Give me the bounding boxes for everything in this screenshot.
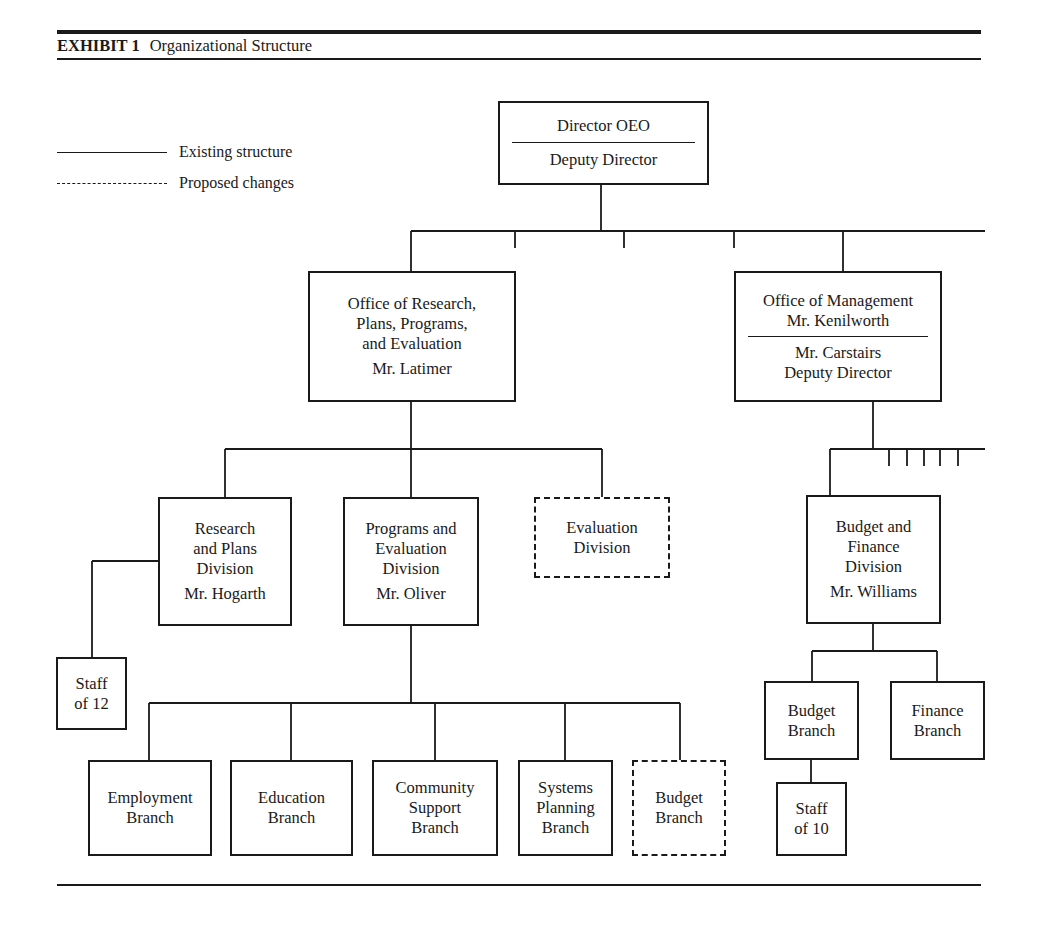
node-label-line: Branch	[655, 808, 703, 828]
node-label-line: Division	[574, 538, 631, 558]
node-label-line: Branch	[914, 721, 962, 741]
node-label-line: Division	[383, 559, 440, 579]
node-label-line: Planning	[536, 798, 595, 818]
director-title: Director OEO	[557, 116, 650, 136]
node-budget-finance-division: Budget and Finance Division Mr. Williams	[806, 495, 941, 624]
node-label-line: Budget and	[836, 517, 912, 537]
legend-existing-label: Existing structure	[179, 143, 292, 161]
bottom-rule	[57, 884, 981, 886]
node-employment-branch: Employment Branch	[88, 760, 212, 856]
node-budget-branch-proposed: Budget Branch	[632, 760, 726, 856]
node-label-line: Office of Research,	[348, 294, 476, 314]
node-label-line: Branch	[788, 721, 836, 741]
node-label-line: Staff	[76, 674, 108, 694]
node-community-support-branch: Community Support Branch	[372, 760, 498, 856]
node-research-plans-division: Research and Plans Division Mr. Hogarth	[158, 497, 292, 626]
deputy-director-title: Deputy Director	[550, 150, 658, 170]
node-systems-planning-branch: Systems Planning Branch	[518, 760, 613, 856]
title-rule	[57, 58, 981, 60]
node-label-line: of 12	[74, 694, 108, 714]
top-rule	[57, 30, 981, 34]
node-label-line: and Plans	[193, 539, 257, 559]
node-label-line: Plans, Programs,	[356, 314, 467, 334]
legend-existing: Existing structure	[57, 143, 292, 161]
legend-proposed: Proposed changes	[57, 174, 294, 192]
node-label-line: Evaluation	[375, 539, 446, 559]
node-label-line: Employment	[107, 788, 192, 808]
solid-line-sample	[57, 152, 167, 153]
node-label-line: Community	[396, 778, 475, 798]
node-label-line: Finance	[911, 701, 963, 721]
node-label-line: Division	[197, 559, 254, 579]
node-label-line: Programs and	[365, 519, 456, 539]
node-head-name: Mr. Oliver	[376, 584, 446, 604]
divider	[748, 336, 928, 337]
node-label-line: of 10	[794, 819, 828, 839]
node-finance-branch: Finance Branch	[890, 681, 985, 760]
node-label-line: Branch	[411, 818, 459, 838]
node-label-line: Staff	[796, 799, 828, 819]
node-head-name: Mr. Hogarth	[184, 584, 266, 604]
dashed-line-sample	[57, 183, 167, 184]
node-label-line: Office of Management	[763, 291, 913, 311]
exhibit-label: EXHIBIT 1	[57, 36, 140, 55]
node-head-name: Mr. Kenilworth	[787, 311, 890, 331]
node-label-line: Systems	[538, 778, 593, 798]
node-label-line: Budget	[655, 788, 703, 808]
node-evaluation-division-proposed: Evaluation Division	[534, 497, 670, 578]
node-staff-of-12: Staff of 12	[56, 657, 127, 730]
node-label-line: Finance	[847, 537, 899, 557]
node-staff-of-10: Staff of 10	[776, 782, 847, 856]
node-label-line: Division	[845, 557, 902, 577]
node-label-line: Budget	[788, 701, 836, 721]
node-label-line: Evaluation	[566, 518, 637, 538]
legend-proposed-label: Proposed changes	[179, 174, 294, 192]
node-education-branch: Education Branch	[230, 760, 353, 856]
node-label-line: Branch	[542, 818, 590, 838]
node-director-oeo: Director OEO Deputy Director	[498, 101, 709, 185]
node-head-name: Mr. Latimer	[372, 359, 452, 379]
node-label-line: Branch	[268, 808, 316, 828]
node-label-line: Research	[195, 519, 255, 539]
node-programs-evaluation-division: Programs and Evaluation Division Mr. Oli…	[343, 497, 479, 626]
node-label-line: Education	[258, 788, 325, 808]
node-office-research-plans-programs-evaluation: Office of Research, Plans, Programs, and…	[308, 271, 516, 402]
node-budget-branch: Budget Branch	[764, 681, 859, 760]
deputy-title: Deputy Director	[784, 363, 892, 383]
node-head-name: Mr. Williams	[830, 582, 917, 602]
divider	[512, 142, 694, 143]
node-label-line: Support	[409, 798, 461, 818]
exhibit-title: EXHIBIT 1Organizational Structure	[57, 36, 312, 56]
node-label-line: and Evaluation	[362, 334, 461, 354]
node-office-of-management: Office of Management Mr. Kenilworth Mr. …	[734, 271, 942, 402]
exhibit-title-text: Organizational Structure	[150, 36, 312, 55]
node-label-line: Branch	[126, 808, 174, 828]
deputy-name: Mr. Carstairs	[795, 343, 881, 363]
